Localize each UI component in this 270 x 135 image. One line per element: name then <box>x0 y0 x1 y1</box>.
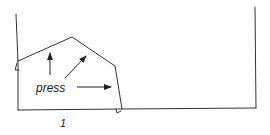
container-floor <box>18 108 256 110</box>
diagram-canvas: press 1 <box>0 0 270 135</box>
figure-number-label: 1 <box>60 118 66 129</box>
container-right-wall <box>255 7 256 108</box>
container-left-wall <box>16 14 18 61</box>
right-hook-mark <box>116 109 121 113</box>
press-label: press <box>36 82 65 94</box>
diagram-svg <box>0 0 270 135</box>
arrow-diagonal-icon <box>65 56 86 78</box>
